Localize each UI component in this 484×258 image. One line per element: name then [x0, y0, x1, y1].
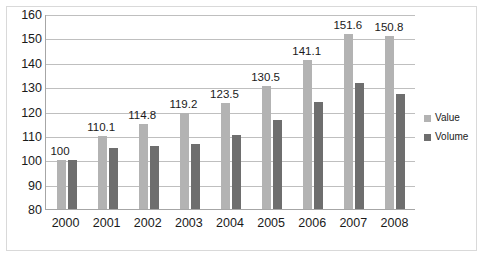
plot-area: [45, 15, 415, 210]
y-axis-tick-label: 160: [6, 9, 42, 22]
bar-value-2001[interactable]: [98, 136, 107, 209]
legend-label-value: Value: [435, 113, 460, 123]
bar-value-label-2002: 114.8: [128, 109, 156, 121]
bar-value-2003[interactable]: [180, 113, 189, 209]
bar-value-label-2003: 119.2: [169, 98, 197, 110]
legend-swatch-value-icon: [424, 115, 431, 122]
bar-volume-2000[interactable]: [68, 160, 77, 209]
legend-item-volume[interactable]: Volume: [424, 132, 468, 142]
x-axis-tick-label: 2002: [134, 216, 162, 230]
bar-value-label-2005: 130.5: [251, 71, 280, 83]
gridline: [46, 39, 415, 40]
x-axis-tick-label: 2006: [298, 216, 326, 230]
y-axis-tick-label: 110: [6, 131, 42, 144]
bar-value-label-2008: 150.8: [375, 21, 404, 33]
bar-value-label-2001: 110.1: [87, 121, 115, 133]
bar-volume-2008[interactable]: [396, 94, 405, 209]
bar-value-label-2006: 141.1: [292, 45, 321, 57]
x-axis-tick-label: 2005: [257, 216, 285, 230]
y-axis-tick-label: 90: [6, 179, 42, 192]
legend-swatch-volume-icon: [424, 134, 431, 141]
x-axis-tick-label: 2004: [216, 216, 244, 230]
bar-value-label-2007: 151.6: [333, 19, 362, 31]
legend-item-value[interactable]: Value: [424, 113, 468, 123]
bar-value-2007[interactable]: [344, 34, 353, 209]
x-axis-tick-label: 2003: [175, 216, 203, 230]
gridline: [46, 15, 415, 16]
x-axis-tick-label: 2000: [52, 216, 80, 230]
bar-value-2006[interactable]: [303, 60, 312, 209]
y-axis-tick-label: 140: [6, 58, 42, 71]
chart-figure: 2000–2008 Value Volume 80901001101201301…: [0, 0, 484, 258]
x-axis-tick-label: 2001: [93, 216, 121, 230]
bar-volume-2001[interactable]: [109, 148, 118, 209]
bar-value-2008[interactable]: [385, 36, 394, 209]
legend-label-volume: Volume: [435, 132, 468, 142]
chart-legend: Value Volume: [424, 113, 468, 151]
y-axis-tick-label: 80: [6, 204, 42, 217]
bar-value-2000[interactable]: [57, 160, 66, 209]
bar-volume-2004[interactable]: [232, 135, 241, 209]
y-axis-tick-label: 100: [6, 155, 42, 168]
gridline: [46, 64, 415, 65]
bar-value-label-2000: 100: [50, 145, 69, 157]
bar-volume-2007[interactable]: [355, 83, 364, 209]
bar-volume-2003[interactable]: [191, 144, 200, 209]
bar-volume-2002[interactable]: [150, 146, 159, 209]
bar-value-label-2004: 123.5: [210, 88, 239, 100]
x-axis-tick-label: 2008: [381, 216, 409, 230]
y-axis-tick-label: 120: [6, 106, 42, 119]
y-axis-tick-label: 130: [6, 82, 42, 95]
bar-value-2004[interactable]: [221, 103, 230, 209]
bar-value-2005[interactable]: [262, 86, 271, 209]
y-axis-tick-label: 150: [6, 33, 42, 46]
x-axis-tick-label: 2007: [339, 216, 367, 230]
bar-value-2002[interactable]: [139, 124, 148, 209]
bar-volume-2005[interactable]: [273, 120, 282, 209]
bar-volume-2006[interactable]: [314, 102, 323, 209]
